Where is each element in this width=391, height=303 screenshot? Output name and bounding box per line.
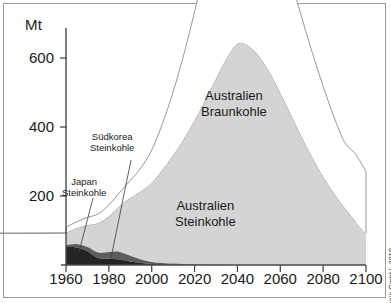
- y-tick-label-200: 200: [8, 187, 54, 204]
- annotation-sudkorea-line1: Südkorea: [92, 131, 133, 142]
- x-tick-label-1960: 1960: [49, 270, 82, 287]
- annotation-japan-line2: Steinkohle: [62, 187, 106, 198]
- annotation-japan-line1: Japan: [71, 176, 97, 187]
- y-axis-label: Mt: [25, 16, 42, 33]
- series-label-braunkohle-line1: Australien: [205, 88, 263, 103]
- y-tick-label-400: 400: [8, 118, 54, 135]
- credit-text: Ludwig-Bölkow-Systemtechnik GmbH, 2010: [387, 248, 391, 303]
- series-label-braunkohle-line2: Braunkohle: [201, 104, 267, 119]
- y-tick-label-600: 600: [8, 49, 54, 66]
- series-label-steinkohle: Australien Steinkohle: [175, 198, 236, 230]
- series-label-steinkohle-line1: Australien: [176, 198, 234, 213]
- x-tick-label-2000: 2000: [135, 270, 168, 287]
- annotation-sudkorea-line2: Steinkohle: [90, 142, 134, 153]
- annotation-japan: Japan Steinkohle: [62, 176, 106, 198]
- chart-plot-area: [0, 0, 391, 303]
- x-tick-label-2080: 2080: [306, 270, 339, 287]
- x-tick-label-2020: 2020: [178, 270, 211, 287]
- x-tick-label-2100: 2100: [349, 270, 382, 287]
- x-tick-label-2060: 2060: [264, 270, 297, 287]
- x-tick-label-2040: 2040: [221, 270, 254, 287]
- series-label-braunkohle: Australien Braunkohle: [201, 88, 267, 120]
- series-label-steinkohle-line2: Steinkohle: [175, 214, 236, 229]
- x-tick-label-1980: 1980: [92, 270, 125, 287]
- annotation-sudkorea: Südkorea Steinkohle: [90, 131, 134, 153]
